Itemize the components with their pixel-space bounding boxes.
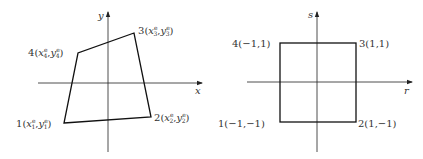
node-2-label: 2(1,−1) <box>358 118 397 129</box>
quadrilateral-element <box>64 33 151 123</box>
left-diagram: y x 4(xe4,ye4) 3(xe3,ye3) 1(xe1,ye1) 2(x… <box>16 10 202 152</box>
s-axis-label: s <box>308 9 313 20</box>
node-1-label: 1(−1,−1) <box>218 118 265 129</box>
node-4-label: 4(xe4,ye4) <box>28 46 64 59</box>
isoparametric-mapping-diagram: y x 4(xe4,ye4) 3(xe3,ye3) 1(xe1,ye1) 2(x… <box>0 0 423 159</box>
node-4-label: 4(−1,1) <box>232 38 271 49</box>
y-axis-label: y <box>97 10 104 21</box>
right-diagram: s r 4(−1,1) 3(1,1) 1(−1,−1) 2(1,−1) <box>218 9 412 152</box>
x-axis-label: x <box>195 85 201 96</box>
square-element <box>280 43 356 122</box>
node-2-label: 2(xe2,ye2) <box>154 111 190 124</box>
node-3-label: 3(xe3,ye3) <box>138 24 174 37</box>
node-3-label: 3(1,1) <box>359 38 389 49</box>
node-1-label: 1(xe1,ye1) <box>16 117 52 130</box>
r-axis-label: r <box>404 85 410 96</box>
